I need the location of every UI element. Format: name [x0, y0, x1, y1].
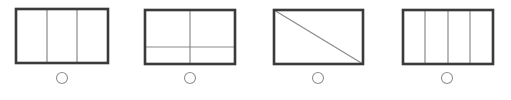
figure-1: [16, 9, 108, 84]
figure-4: [403, 10, 493, 84]
figure-frame: [16, 9, 108, 63]
fraction-figures-diagram: [0, 0, 511, 100]
figure-2: [145, 10, 235, 84]
figure-3: [274, 10, 363, 84]
divider-line: [274, 10, 363, 64]
answer-circle[interactable]: [313, 73, 324, 84]
answer-circle[interactable]: [57, 73, 68, 84]
figures-canvas: [0, 0, 511, 100]
answer-circle[interactable]: [185, 73, 196, 84]
answer-circle[interactable]: [442, 73, 453, 84]
